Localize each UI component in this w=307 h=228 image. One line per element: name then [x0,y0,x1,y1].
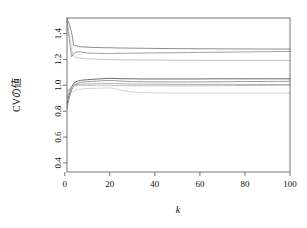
series-line [67,28,290,60]
axis-ticks [63,34,290,176]
data-series-layer [67,18,290,109]
x-tick-label: 80 [240,179,250,189]
y-tick-label: 1.4 [53,27,63,39]
y-tick-label: 1.2 [53,54,63,65]
series-line [67,21,290,57]
series-line [67,18,290,49]
x-tick-label: 100 [283,179,297,189]
y-tick-label: 0.8 [53,105,63,117]
y-tick-label: 0.4 [53,157,63,169]
plot-frame [67,18,290,172]
y-tick-label: 1.0 [53,79,63,91]
x-tick-label: 40 [150,179,160,189]
x-tick-label: 20 [105,179,115,189]
y-tick-label: 0.6 [53,131,63,143]
chart-figure: 0204060801000.40.60.81.01.21.4 k CVの値 [0,0,307,228]
x-tick-label: 0 [62,179,67,189]
x-axis-title: k [176,204,181,215]
series-line [67,88,290,93]
cv-vs-k-line-chart: 0204060801000.40.60.81.01.21.4 k CVの値 [0,0,307,228]
x-tick-label: 60 [195,179,205,189]
y-axis-title: CVの値 [10,78,22,112]
